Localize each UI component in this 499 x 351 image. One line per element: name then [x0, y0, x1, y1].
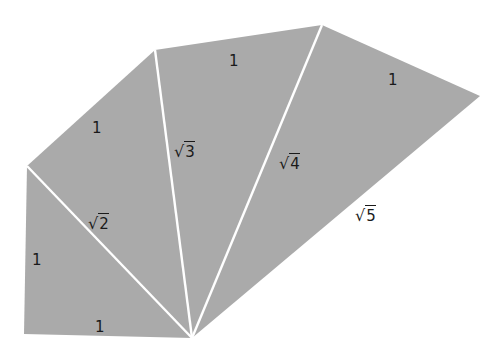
label-outer-1: 1: [92, 121, 102, 136]
radical-sign: √: [279, 154, 289, 173]
radical-sign: √: [174, 142, 184, 161]
radicand: 3: [184, 141, 195, 161]
label-sqrt5: √5: [355, 208, 376, 224]
label-sqrt3: √3: [174, 144, 195, 160]
radical-sign: √: [355, 206, 365, 225]
label-outer-3: 1: [388, 73, 398, 88]
spiral-diagram: [0, 0, 499, 351]
label-sqrt4: √4: [279, 156, 300, 172]
radical-sign: √: [88, 214, 98, 233]
label-sqrt2: √2: [88, 216, 109, 232]
radicand: 5: [365, 205, 376, 225]
label-left-leg: 1: [32, 253, 42, 268]
label-outer-2: 1: [229, 54, 239, 69]
radicand: 4: [289, 153, 300, 173]
radicand: 2: [98, 213, 109, 233]
label-bottom-leg: 1: [95, 320, 105, 335]
